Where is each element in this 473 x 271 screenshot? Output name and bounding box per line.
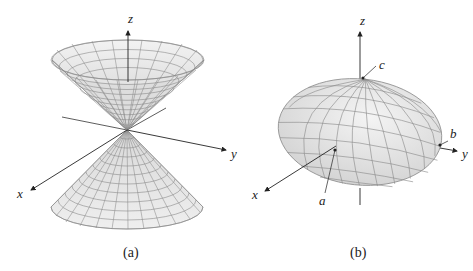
y-axis-label-b: y [462, 147, 468, 160]
c-intercept-label: c [379, 58, 385, 71]
x-axis-label-b: x [252, 188, 258, 201]
caption-b: (b) [350, 246, 366, 260]
panel-a-double-cone [31, 31, 226, 229]
figure-canvas [0, 0, 473, 271]
z-axis-label-b: z [360, 14, 365, 27]
a-intercept-dot [333, 148, 336, 151]
x-axis-label-a: x [17, 187, 23, 200]
y-axis-label-a: y [231, 147, 237, 160]
b-intercept-dot [438, 143, 441, 146]
upper-nappe [51, 40, 204, 130]
z-axis-label-a: z [128, 12, 133, 25]
a-intercept-label: a [319, 194, 326, 207]
b-intercept-label: b [450, 127, 457, 140]
y-axis [440, 148, 457, 151]
caption-a: (a) [123, 246, 139, 260]
lower-nappe [51, 130, 203, 229]
c-pointer [363, 66, 376, 78]
ellipsoid-surface [273, 71, 447, 194]
panel-b-ellipsoid [265, 32, 457, 205]
c-intercept-dot [361, 76, 364, 79]
